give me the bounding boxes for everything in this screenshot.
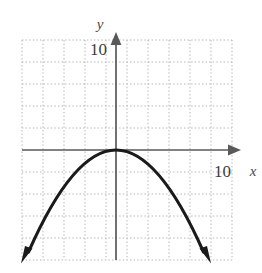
y-axis-tick-label-10: 10	[90, 40, 107, 59]
graph-figure: y x 10 10	[0, 0, 262, 273]
y-axis-label: y	[95, 16, 104, 32]
x-axis-label: x	[249, 163, 257, 179]
x-axis-tick-label-10: 10	[214, 162, 231, 181]
